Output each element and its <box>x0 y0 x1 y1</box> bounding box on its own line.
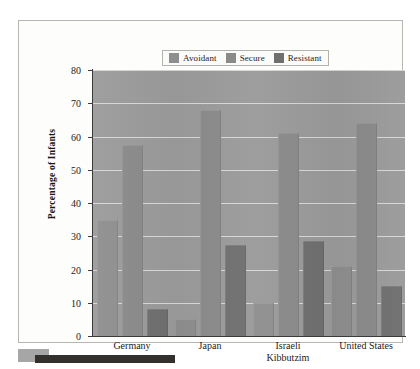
bar-secure-1 <box>200 110 221 336</box>
legend-swatch-icon <box>169 53 179 63</box>
x-axis-line <box>92 336 406 337</box>
legend-label: Resistant <box>288 53 322 63</box>
gridline <box>93 103 405 104</box>
bar-avoidant-3 <box>331 266 352 336</box>
bar-resistant-2 <box>303 241 324 336</box>
y-axis-tick-label: 0 <box>59 331 81 341</box>
y-axis-tick-label-text: 50 <box>59 165 81 176</box>
bar-avoidant-2 <box>253 303 274 336</box>
y-axis-tick-mark <box>88 137 92 138</box>
x-axis-label: Japan <box>171 340 249 352</box>
y-axis-tick-label: 10 <box>59 298 81 308</box>
y-axis-tick-label-text: 30 <box>59 231 81 242</box>
x-axis-label-line: Germany <box>93 340 171 352</box>
caption-rule <box>35 355 175 363</box>
gridline <box>93 70 405 71</box>
x-axis-label: Germany <box>93 340 171 352</box>
bar-avoidant-1 <box>175 319 196 336</box>
legend-label: Avoidant <box>183 53 217 63</box>
y-axis-tick-label: 20 <box>59 265 81 275</box>
y-axis-tick-label: 70 <box>59 98 81 108</box>
legend-item-secure: Secure <box>226 53 265 63</box>
y-axis-tick-mark <box>88 70 92 71</box>
y-axis-tick-label: 80 <box>59 65 81 75</box>
figure-container: Percentage of Infants 01020304050607080 … <box>0 0 420 369</box>
y-axis-tick-label-text: 0 <box>59 331 81 342</box>
y-axis-tick-mark <box>88 270 92 271</box>
y-axis-tick-mark <box>88 303 92 304</box>
bar-resistant-1 <box>225 245 246 336</box>
legend-label: Secure <box>240 53 265 63</box>
chart-panel: Percentage of Infants 01020304050607080 … <box>18 20 403 343</box>
bar-secure-0 <box>122 145 143 336</box>
y-axis-tick-label: 60 <box>59 132 81 142</box>
x-axis-label-line: Japan <box>171 340 249 352</box>
y-axis-tick-label-text: 80 <box>59 65 81 76</box>
y-axis-tick-mark <box>88 103 92 104</box>
bar-resistant-3 <box>381 286 402 336</box>
bar-secure-2 <box>278 133 299 336</box>
y-axis-tick-label: 40 <box>59 198 81 208</box>
x-axis-label-line: Kibbutzim <box>249 352 327 364</box>
bar-resistant-0 <box>147 309 168 336</box>
y-axis-tick-mark <box>88 336 92 337</box>
y-axis-tick-mark <box>88 203 92 204</box>
bar-avoidant-0 <box>97 220 118 336</box>
y-axis-tick-label-text: 20 <box>59 265 81 276</box>
legend-swatch-icon <box>274 53 284 63</box>
y-axis-tick-label-text: 70 <box>59 98 81 109</box>
chart-legend: Avoidant Secure Resistant <box>162 50 329 66</box>
legend-item-avoidant: Avoidant <box>169 53 217 63</box>
y-axis-tick-label-text: 10 <box>59 298 81 309</box>
x-axis-label: IsraeliKibbutzim <box>249 340 327 364</box>
x-axis-label: United States <box>327 340 405 352</box>
x-axis-label-line: Israeli <box>249 340 327 352</box>
y-axis-tick-label: 50 <box>59 165 81 175</box>
x-axis-label-line: United States <box>327 340 405 352</box>
legend-swatch-icon <box>226 53 236 63</box>
y-axis-title: Percentage of Infants <box>47 94 57 254</box>
y-axis-tick-mark <box>88 170 92 171</box>
plot-area <box>93 70 405 336</box>
y-axis-tick-label-text: 40 <box>59 198 81 209</box>
y-axis-tick-label: 30 <box>59 231 81 241</box>
bar-secure-3 <box>356 123 377 336</box>
y-axis-tick-label-text: 60 <box>59 132 81 143</box>
legend-item-resistant: Resistant <box>274 53 322 63</box>
y-axis-tick-mark <box>88 236 92 237</box>
